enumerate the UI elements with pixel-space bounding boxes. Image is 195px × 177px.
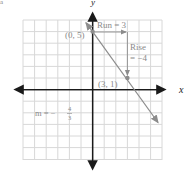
point-3-1 bbox=[125, 76, 129, 80]
coordinate-plane: x y a (0, 5) (3, 1) Run = 3 Rise = −4 m … bbox=[0, 0, 195, 177]
point-label-0-5: (0, 5) bbox=[65, 30, 85, 40]
rise-label-line2: = −4 bbox=[130, 53, 147, 63]
x-axis-label: x bbox=[178, 84, 184, 95]
partial-label: a bbox=[0, 0, 4, 6]
rise-label-line1: Rise bbox=[130, 42, 146, 52]
slope-label: m = − bbox=[35, 108, 56, 118]
point-0-5 bbox=[90, 29, 94, 33]
slope-numerator: 4 bbox=[68, 105, 72, 112]
slope-denominator: 3 bbox=[68, 114, 71, 121]
run-label: Run = 3 bbox=[97, 20, 127, 30]
point-label-3-1: (3, 1) bbox=[98, 79, 118, 89]
y-axis-label: y bbox=[90, 0, 95, 7]
